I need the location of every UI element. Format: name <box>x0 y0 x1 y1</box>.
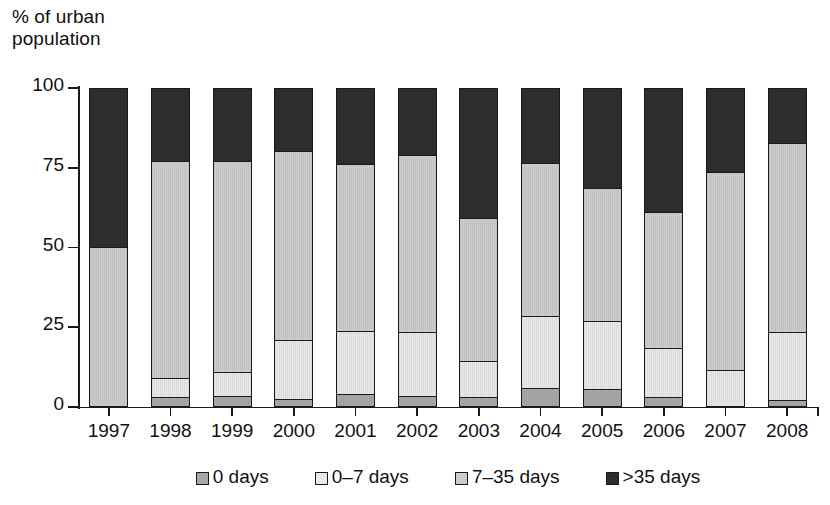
x-tick-label-2007: 2007 <box>695 420 757 442</box>
bar-segment <box>90 89 127 248</box>
bar-segment <box>645 213 682 349</box>
x-tick-mark <box>293 407 295 416</box>
bar-segment <box>399 397 436 407</box>
bar-segment <box>275 89 312 152</box>
x-tick-label-2001: 2001 <box>325 420 387 442</box>
x-tick-mark <box>478 407 480 416</box>
bar-segment <box>152 398 189 406</box>
legend-swatch-icon <box>606 472 619 485</box>
x-tick-label-2004: 2004 <box>510 420 572 442</box>
bar-segment <box>214 373 251 397</box>
x-tick-mark-end <box>817 407 819 416</box>
x-tick-mark <box>108 407 110 416</box>
bar-segment <box>522 164 559 318</box>
bar-segment <box>460 89 497 219</box>
bar-2007 <box>706 88 745 407</box>
bar-2001 <box>336 88 375 407</box>
bar-segment <box>769 89 806 144</box>
legend-swatch-icon <box>455 472 468 485</box>
chart-legend: 0 days0–7 days7–35 days>35 days <box>78 462 818 492</box>
x-tick-mark <box>540 407 542 416</box>
x-tick-mark <box>786 407 788 416</box>
bar-segment <box>584 89 621 189</box>
stacked-bar-chart: % of urban population 0255075100 1997199… <box>0 0 830 505</box>
bar-segment <box>645 349 682 398</box>
bar-segment <box>584 189 621 322</box>
x-tick-mark <box>601 407 603 416</box>
bar-segment <box>337 332 374 395</box>
bar-2000 <box>274 88 313 407</box>
legend-swatch-icon <box>315 472 328 485</box>
bar-segment <box>707 371 744 406</box>
bar-segment <box>152 162 189 379</box>
x-tick-mark <box>355 407 357 416</box>
legend-item-2[interactable]: 7–35 days <box>455 466 560 488</box>
bar-segment <box>769 333 806 401</box>
y-tick-mark <box>68 167 78 169</box>
legend-label: 0–7 days <box>332 466 409 488</box>
y-tick-label: 50 <box>43 235 64 254</box>
bar-segment <box>275 152 312 341</box>
bar-segment <box>337 165 374 331</box>
bar-segment <box>522 389 559 406</box>
y-tick-mark <box>68 406 78 408</box>
bar-1997 <box>89 88 128 407</box>
bar-segment <box>399 156 436 334</box>
bar-segment <box>522 89 559 164</box>
x-tick-label-2008: 2008 <box>756 420 818 442</box>
bar-segment <box>152 379 189 398</box>
bar-segment <box>275 400 312 406</box>
bar-2006 <box>644 88 683 407</box>
y-axis-title: % of urban population <box>12 6 105 50</box>
bar-2004 <box>521 88 560 407</box>
x-tick-label-2005: 2005 <box>571 420 633 442</box>
y-tick-label: 75 <box>43 155 64 174</box>
x-tick-mark <box>725 407 727 416</box>
legend-label: 7–35 days <box>472 466 560 488</box>
bar-segment <box>399 89 436 156</box>
bar-segment <box>645 89 682 213</box>
bar-segment <box>460 398 497 406</box>
bar-segment <box>707 173 744 371</box>
x-tick-label-2006: 2006 <box>633 420 695 442</box>
y-axis-line <box>78 86 80 409</box>
bar-segment <box>337 89 374 165</box>
y-tick-mark <box>68 87 78 89</box>
legend-item-3[interactable]: >35 days <box>606 466 701 488</box>
bar-segment <box>214 397 251 407</box>
bar-2002 <box>398 88 437 407</box>
x-tick-mark <box>663 407 665 416</box>
bar-2008 <box>768 88 807 407</box>
bar-segment <box>769 401 806 406</box>
legend-label: >35 days <box>623 466 701 488</box>
bar-segment <box>584 322 621 390</box>
x-tick-label-1997: 1997 <box>78 420 140 442</box>
x-tick-label-2002: 2002 <box>386 420 448 442</box>
bar-2003 <box>459 88 498 407</box>
bar-segment <box>707 89 744 173</box>
x-tick-mark <box>231 407 233 416</box>
legend-item-0[interactable]: 0 days <box>196 466 269 488</box>
bar-segment <box>214 162 251 373</box>
bar-segment <box>275 341 312 400</box>
bar-segment <box>522 317 559 388</box>
bar-segment <box>152 89 189 162</box>
legend-label: 0 days <box>213 466 269 488</box>
bar-segment <box>90 248 127 407</box>
legend-swatch-icon <box>196 472 209 485</box>
y-tick-label: 25 <box>43 314 64 333</box>
bar-segment <box>460 362 497 398</box>
legend-item-1[interactable]: 0–7 days <box>315 466 409 488</box>
bar-segment <box>769 144 806 333</box>
bar-1998 <box>151 88 190 407</box>
bar-segment <box>584 390 621 406</box>
x-tick-mark <box>416 407 418 416</box>
bar-segment <box>645 398 682 406</box>
y-tick-mark <box>68 247 78 249</box>
y-tick-mark <box>68 326 78 328</box>
y-tick-label: 100 <box>32 75 64 94</box>
y-tick-label: 0 <box>53 394 64 413</box>
bar-2005 <box>583 88 622 407</box>
bar-segment <box>460 219 497 362</box>
bar-segment <box>399 333 436 396</box>
